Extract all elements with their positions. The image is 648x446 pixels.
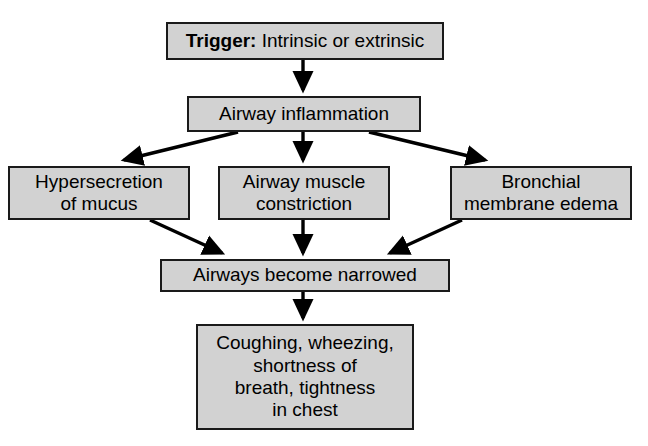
node-trigger-label: Trigger: Intrinsic or extrinsic xyxy=(180,30,431,52)
node-airways-become-narrowed: Airways become narrowed xyxy=(160,259,450,292)
edge-edema-to-narrowed xyxy=(390,220,462,253)
edge-mucus-to-narrowed xyxy=(150,220,222,253)
node-airway-inflammation: Airway inflammation xyxy=(187,96,421,132)
node-airways-become-narrowed-label: Airways become narrowed xyxy=(187,264,423,286)
edge-inflammation-to-edema xyxy=(369,132,485,160)
node-airway-muscle-constriction-label: Airway muscle constriction xyxy=(237,171,371,216)
node-trigger-lead: Trigger: xyxy=(186,30,257,51)
node-airway-muscle-constriction: Airway muscle constriction xyxy=(218,166,390,220)
node-bronchial-membrane-edema: Bronchial membrane edema xyxy=(450,166,632,220)
node-symptoms: Coughing, wheezing, shortness of breath,… xyxy=(196,324,414,430)
node-hypersecretion-of-mucus-label: Hypersecretion of mucus xyxy=(29,171,169,216)
flowchart-canvas: Trigger: Intrinsic or extrinsic Airway i… xyxy=(0,0,648,446)
node-symptoms-label: Coughing, wheezing, shortness of breath,… xyxy=(210,332,399,422)
edge-inflammation-to-mucus xyxy=(124,132,238,160)
node-airway-inflammation-label: Airway inflammation xyxy=(213,103,395,125)
node-hypersecretion-of-mucus: Hypersecretion of mucus xyxy=(8,166,190,220)
node-trigger: Trigger: Intrinsic or extrinsic xyxy=(166,22,444,60)
node-trigger-body: Intrinsic or extrinsic xyxy=(256,30,424,51)
node-bronchial-membrane-edema-label: Bronchial membrane edema xyxy=(458,171,624,216)
